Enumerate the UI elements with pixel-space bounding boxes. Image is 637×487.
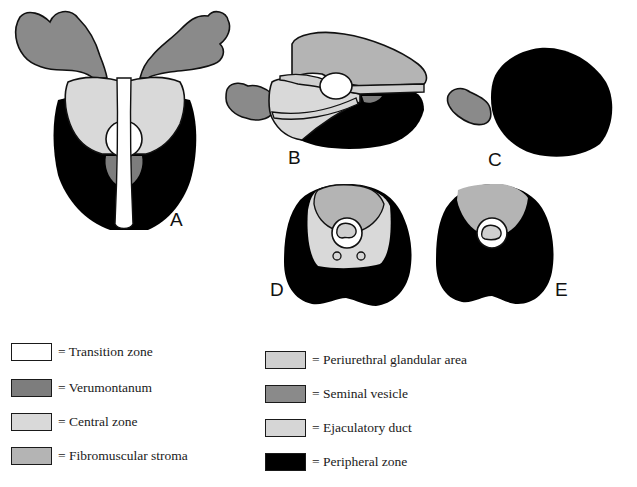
swatch-fibromuscular-stroma — [11, 447, 52, 465]
legend-item-ejaculatory-duct: = Ejaculatory duct — [265, 416, 412, 440]
swatch-ejaculatory-duct — [265, 419, 306, 437]
swatch-seminal-vesicle — [265, 385, 306, 403]
legend-item-fibromuscular-stroma: = Fibromuscular stroma — [11, 444, 188, 468]
swatch-transition-zone — [11, 343, 52, 361]
legend-label: = Ejaculatory duct — [312, 420, 412, 436]
legend-item-periurethral-glandular-area: = Periurethral glandular area — [265, 348, 467, 372]
panel-label-e: E — [555, 279, 568, 300]
legend-item-seminal-vesicle: = Seminal vesicle — [265, 382, 408, 406]
legend-label: = Periurethral glandular area — [312, 352, 467, 368]
swatch-peripheral-zone — [265, 453, 306, 471]
prostate-zone-diagram: A B C D — [0, 0, 637, 330]
panel-c-peripheral-zone — [491, 48, 612, 157]
panel-d-ejaculatory-duct-right — [357, 252, 365, 260]
panel-d: D — [270, 184, 412, 306]
legend: = Transition zone = Verumontanum = Centr… — [0, 330, 637, 487]
legend-item-central-zone: = Central zone — [11, 410, 138, 434]
panel-label-a: A — [170, 209, 183, 230]
legend-label: = Fibromuscular stroma — [58, 448, 188, 464]
swatch-periurethral-glandular-area — [265, 351, 306, 369]
panel-a-seminal-vesicle-left — [16, 12, 107, 78]
panel-a-seminal-vesicle-right — [140, 12, 230, 78]
panel-e: E — [436, 184, 568, 304]
panel-label-b: B — [288, 147, 301, 168]
legend-label: = Seminal vesicle — [312, 386, 408, 402]
swatch-verumontanum — [11, 379, 52, 397]
legend-label: = Transition zone — [58, 344, 153, 360]
panel-c: C — [447, 48, 612, 170]
swatch-central-zone — [11, 413, 52, 431]
panel-label-c: C — [488, 149, 502, 170]
panel-d-urethra — [337, 223, 356, 238]
panel-b-transition-zone — [320, 73, 352, 99]
panel-a-urethra — [115, 78, 133, 229]
panel-a: A — [16, 12, 230, 230]
legend-label: = Central zone — [58, 414, 138, 430]
panel-b: B — [226, 32, 426, 168]
legend-label: = Peripheral zone — [312, 454, 407, 470]
legend-item-verumontanum: = Verumontanum — [11, 376, 152, 400]
panel-e-urethra — [482, 225, 501, 239]
legend-item-transition-zone: = Transition zone — [11, 340, 153, 364]
panel-c-seminal-vesicle — [447, 89, 490, 125]
panel-b-seminal-vesicle — [226, 83, 274, 120]
legend-label: = Verumontanum — [58, 380, 152, 396]
panel-label-d: D — [270, 279, 284, 300]
panel-d-ejaculatory-duct-left — [333, 252, 341, 260]
legend-item-peripheral-zone: = Peripheral zone — [265, 450, 407, 474]
